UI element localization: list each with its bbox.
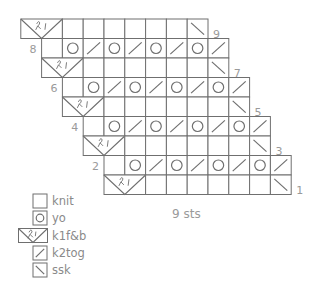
yo-icon bbox=[146, 39, 167, 59]
yo-icon bbox=[146, 117, 167, 137]
knit-icon bbox=[187, 97, 208, 117]
kfb-icon bbox=[21, 19, 63, 39]
yo-icon bbox=[104, 39, 125, 59]
chart-row-4 bbox=[83, 117, 270, 137]
knit-icon bbox=[33, 194, 47, 208]
knit-icon bbox=[125, 58, 146, 78]
knit-icon bbox=[208, 97, 229, 117]
ssk-icon bbox=[187, 19, 208, 39]
k2tog-icon bbox=[125, 39, 146, 59]
chart-row-1 bbox=[104, 175, 291, 195]
legend-label: yo bbox=[52, 211, 66, 225]
knit-icon bbox=[83, 58, 104, 78]
yo-icon bbox=[33, 211, 47, 225]
knit-icon bbox=[229, 136, 250, 156]
knit-icon bbox=[146, 97, 167, 117]
yo-icon bbox=[208, 156, 229, 176]
knit-icon bbox=[187, 136, 208, 156]
legend-item-ssk: ssk bbox=[33, 263, 71, 277]
chart-row-6 bbox=[62, 78, 249, 98]
knit-icon bbox=[166, 19, 187, 39]
yo-icon bbox=[250, 156, 271, 176]
k2tog-icon bbox=[208, 39, 229, 59]
knit-icon bbox=[83, 117, 104, 137]
k2tog-icon bbox=[208, 117, 229, 137]
ssk-icon bbox=[270, 175, 291, 195]
ssk-icon bbox=[250, 136, 271, 156]
legend-item-knit: knit bbox=[33, 194, 74, 208]
k2tog-icon bbox=[125, 117, 146, 137]
knit-icon bbox=[125, 19, 146, 39]
k2tog-icon bbox=[250, 117, 271, 137]
knit-icon bbox=[146, 175, 167, 195]
knit-icon bbox=[208, 136, 229, 156]
knit-icon bbox=[187, 175, 208, 195]
row-label-2: 2 bbox=[92, 160, 99, 173]
knit-icon bbox=[62, 78, 83, 98]
kfb-icon bbox=[83, 136, 125, 156]
row-label-9: 9 bbox=[213, 28, 220, 41]
knit-icon bbox=[104, 97, 125, 117]
row-label-3: 3 bbox=[275, 145, 282, 158]
k2tog-icon bbox=[166, 39, 187, 59]
knitting-chart: 987654321 9 sts knityok1f&bk2togssk bbox=[0, 0, 312, 299]
k2tog-icon bbox=[146, 156, 167, 176]
row-label-4: 4 bbox=[71, 121, 78, 134]
legend-item-kfb: k1f&b bbox=[19, 229, 87, 243]
chart-row-9 bbox=[21, 19, 208, 39]
knit-icon bbox=[208, 175, 229, 195]
yo-icon bbox=[125, 156, 146, 176]
yo-icon bbox=[187, 39, 208, 59]
knit-icon bbox=[166, 97, 187, 117]
yo-icon bbox=[104, 117, 125, 137]
knit-icon bbox=[250, 175, 271, 195]
yo-icon bbox=[208, 78, 229, 98]
legend-item-k2tog: k2tog bbox=[33, 246, 85, 260]
k2tog-icon bbox=[33, 246, 47, 260]
yo-icon bbox=[187, 117, 208, 137]
kfb-icon bbox=[62, 97, 104, 117]
kfb-icon bbox=[42, 58, 84, 78]
knit-icon bbox=[166, 175, 187, 195]
chart-row-2 bbox=[104, 156, 291, 176]
kfb-icon bbox=[104, 175, 146, 195]
yo-icon bbox=[125, 78, 146, 98]
ssk-icon bbox=[208, 58, 229, 78]
knit-icon bbox=[83, 19, 104, 39]
legend-label: k2tog bbox=[52, 246, 85, 260]
yo-icon bbox=[62, 39, 83, 59]
chart-row-5 bbox=[62, 97, 249, 117]
knit-icon bbox=[146, 19, 167, 39]
knit-icon bbox=[229, 175, 250, 195]
yo-icon bbox=[166, 78, 187, 98]
legend: knityok1f&bk2togssk bbox=[19, 194, 87, 277]
knit-icon bbox=[125, 136, 146, 156]
knit-icon bbox=[104, 58, 125, 78]
knit-icon bbox=[42, 39, 63, 59]
k2tog-icon bbox=[187, 78, 208, 98]
knit-icon bbox=[125, 97, 146, 117]
knit-icon bbox=[187, 58, 208, 78]
ssk-icon bbox=[33, 263, 47, 277]
kfb-icon bbox=[19, 229, 48, 243]
legend-label: k1f&b bbox=[52, 229, 86, 243]
width-label: 9 sts bbox=[172, 207, 201, 221]
knit-icon bbox=[104, 19, 125, 39]
k2tog-icon bbox=[187, 156, 208, 176]
row-label-5: 5 bbox=[255, 106, 262, 119]
yo-icon bbox=[229, 117, 250, 137]
legend-item-yo: yo bbox=[33, 211, 66, 225]
knit-icon bbox=[104, 156, 125, 176]
row-label-1: 1 bbox=[296, 184, 303, 197]
chart-row-8 bbox=[42, 39, 229, 59]
k2tog-icon bbox=[83, 39, 104, 59]
chart-grid bbox=[21, 19, 291, 195]
k2tog-icon bbox=[146, 78, 167, 98]
knit-icon bbox=[62, 19, 83, 39]
chart-row-7 bbox=[42, 58, 229, 78]
row-label-8: 8 bbox=[30, 43, 37, 56]
k2tog-icon bbox=[229, 156, 250, 176]
yo-icon bbox=[83, 78, 104, 98]
knit-icon bbox=[146, 58, 167, 78]
legend-label: ssk bbox=[52, 263, 71, 277]
